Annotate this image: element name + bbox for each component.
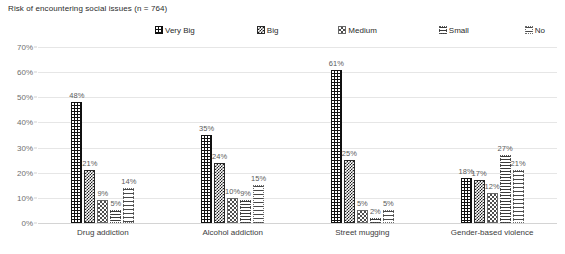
bar-group: 48%21%9%5%14%Drug addiction <box>38 47 168 223</box>
y-axis-tick-label: 70% <box>17 43 33 52</box>
bar-value-label: 61% <box>329 59 344 68</box>
x-axis-category-label: Gender-based violence <box>427 228 557 237</box>
bar-value-label: 21% <box>511 159 526 168</box>
y-axis-tick-mark <box>34 223 37 224</box>
bar-value-label: 5% <box>110 199 121 208</box>
bar[interactable] <box>357 210 368 223</box>
bar[interactable] <box>123 188 134 223</box>
bar-value-label: 9% <box>97 189 108 198</box>
bar[interactable] <box>71 102 82 223</box>
bar-slot: 18% <box>461 47 472 223</box>
legend-item-small[interactable]: Small <box>439 26 469 35</box>
bar[interactable] <box>84 170 95 223</box>
legend-label: No <box>535 26 545 35</box>
bar-group: 35%24%10%9%15%Alcohol addiction <box>168 47 298 223</box>
legend-item-medium[interactable]: Medium <box>338 26 376 35</box>
y-axis-tick-mark <box>34 147 37 148</box>
y-axis-tick-mark <box>34 122 37 123</box>
bar-slot: 5% <box>357 47 368 223</box>
gridline <box>38 223 557 224</box>
bar-value-label: 15% <box>251 174 266 183</box>
bar-slot: 24% <box>214 47 225 223</box>
bar-value-label: 27% <box>498 144 513 153</box>
bar-value-label: 21% <box>82 159 97 168</box>
y-axis-tick-mark <box>34 172 37 173</box>
legend-swatch-icon <box>257 26 265 34</box>
legend-swatch-icon <box>155 26 163 34</box>
bar-groups: 48%21%9%5%14%Drug addiction35%24%10%9%15… <box>38 47 557 223</box>
legend-item-very-big[interactable]: Very Big <box>155 26 195 35</box>
bar-slot: 17% <box>474 47 485 223</box>
bar[interactable] <box>110 210 121 223</box>
bars: 48%21%9%5%14% <box>38 47 168 223</box>
bar-value-label: 5% <box>383 199 394 208</box>
bar[interactable] <box>513 170 524 223</box>
y-axis-tick-label: 20% <box>17 168 33 177</box>
bar-value-label: 10% <box>225 187 240 196</box>
chart-container: Risk of encountering social issues (n = … <box>0 0 565 254</box>
bar-slot: 10% <box>227 47 238 223</box>
legend-label: Medium <box>348 26 376 35</box>
bar-slot: 27% <box>500 47 511 223</box>
bar[interactable] <box>370 218 381 223</box>
bar[interactable] <box>97 200 108 223</box>
y-axis-tick-label: 10% <box>17 193 33 202</box>
legend-item-no[interactable]: No <box>525 26 545 35</box>
legend-label: Big <box>267 26 279 35</box>
bar-slot: 12% <box>487 47 498 223</box>
x-axis-category-label: Alcohol addiction <box>168 228 298 237</box>
y-axis-tick-mark <box>34 72 37 73</box>
bar[interactable] <box>227 198 238 223</box>
legend-swatch-icon <box>525 26 533 34</box>
y-axis-tick-label: 40% <box>17 118 33 127</box>
bar-slot: 15% <box>253 47 264 223</box>
y-axis-tick-label: 0% <box>21 219 33 228</box>
bar-slot: 21% <box>84 47 95 223</box>
bar-value-label: 25% <box>342 149 357 158</box>
bar-slot: 14% <box>123 47 134 223</box>
bar-slot: 35% <box>201 47 212 223</box>
y-axis-tick-label: 50% <box>17 93 33 102</box>
bar-value-label: 35% <box>199 124 214 133</box>
chart-title: Risk of encountering social issues (n = … <box>8 4 167 13</box>
bar[interactable] <box>253 185 264 223</box>
y-axis-tick-label: 30% <box>17 143 33 152</box>
y-axis-tick-mark <box>34 97 37 98</box>
bar[interactable] <box>383 210 394 223</box>
bar-value-label: 2% <box>370 207 381 216</box>
bar[interactable] <box>344 160 355 223</box>
bar-value-label: 14% <box>121 177 136 186</box>
bars: 18%17%12%27%21% <box>427 47 557 223</box>
bars: 35%24%10%9%15% <box>168 47 298 223</box>
bar-slot: 9% <box>97 47 108 223</box>
bar[interactable] <box>500 155 511 223</box>
bar-value-label: 12% <box>485 182 500 191</box>
bar-slot: 25% <box>344 47 355 223</box>
bar-slot: 5% <box>383 47 394 223</box>
y-axis-tick-mark <box>34 47 37 48</box>
bar-group: 18%17%12%27%21%Gender-based violence <box>427 47 557 223</box>
bar-slot: 9% <box>240 47 251 223</box>
bar-slot: 48% <box>71 47 82 223</box>
bar-slot: 2% <box>370 47 381 223</box>
bar-group: 61%25%5%2%5%Street mugging <box>298 47 428 223</box>
plot-area: 0%10%20%30%40%50%60%70% 48%21%9%5%14%Dru… <box>38 47 557 223</box>
bar[interactable] <box>461 178 472 223</box>
legend-item-big[interactable]: Big <box>257 26 279 35</box>
bar-slot: 5% <box>110 47 121 223</box>
legend-swatch-icon <box>439 26 447 34</box>
x-axis-category-label: Street mugging <box>298 228 428 237</box>
y-axis-tick-label: 60% <box>17 68 33 77</box>
bar-value-label: 48% <box>69 91 84 100</box>
bar-value-label: 24% <box>212 152 227 161</box>
bar[interactable] <box>474 180 485 223</box>
y-axis-tick-mark <box>34 197 37 198</box>
bar[interactable] <box>240 200 251 223</box>
legend-label: Small <box>449 26 469 35</box>
bar[interactable] <box>331 70 342 223</box>
bar[interactable] <box>201 135 212 223</box>
bar[interactable] <box>487 193 498 223</box>
bars: 61%25%5%2%5% <box>298 47 428 223</box>
bar[interactable] <box>214 163 225 223</box>
x-axis-category-label: Drug addiction <box>38 228 168 237</box>
